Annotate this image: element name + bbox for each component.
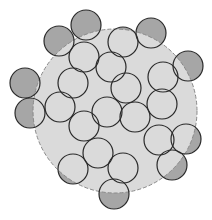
circle-packing-diagram <box>0 0 212 220</box>
